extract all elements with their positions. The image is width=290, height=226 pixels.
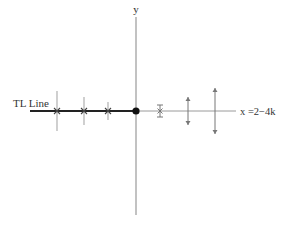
arrow-up-icon — [186, 97, 191, 101]
diagram-canvas: y TL Line x =2−4k — [0, 0, 290, 226]
arrow-down-icon — [186, 121, 191, 125]
y-axis-label: y — [133, 3, 139, 15]
origin-dot — [132, 107, 139, 114]
tl-line-label: TL Line — [13, 97, 49, 109]
arrow-down-icon — [213, 130, 218, 134]
arrow-up-icon — [213, 88, 218, 92]
x-axis-label: x =2−4k — [240, 106, 276, 117]
